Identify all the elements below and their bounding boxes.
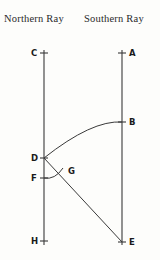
tick-marks-group [40,53,126,242]
point-label-e: E [129,238,135,247]
point-label-f: F [31,174,37,183]
figure-canvas: Northern Ray Southern Ray CABDGFHE [0,0,160,260]
ray-diagram [0,0,160,260]
ray-lines-group [44,50,122,245]
point-label-b: B [129,118,135,127]
segment-D-to-E [44,158,122,242]
arc-F-to-G [44,168,63,178]
curve-paths-group [44,122,122,242]
point-label-c: C [31,49,37,58]
point-label-a: A [129,49,136,58]
point-label-g: G [68,167,75,176]
point-label-h: H [31,237,38,246]
arc-D-to-B [44,122,122,158]
point-label-d: D [31,154,38,163]
